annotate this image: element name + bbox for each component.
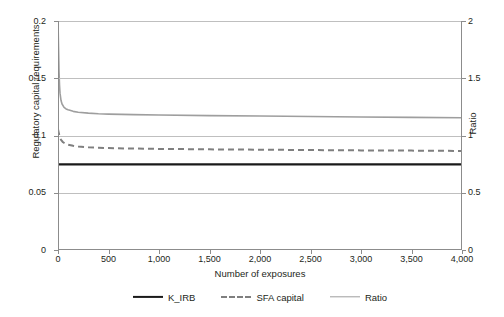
y2-tick-mark: [462, 193, 466, 194]
x-tick-label: 500: [101, 254, 116, 264]
gridline: [58, 21, 462, 22]
chart-legend: K_IRBSFA capitalRatio: [58, 290, 462, 304]
gridline: [58, 136, 462, 137]
x-tick-label: 3,000: [350, 254, 373, 264]
legend-swatch-icon: [330, 293, 360, 301]
y-axis-left-title: Regulatory capital requirements: [30, 0, 41, 192]
y-axis-right-title: Ratio: [467, 84, 478, 164]
x-axis-title: Number of exposures: [58, 268, 462, 279]
x-tick-label: 2,500: [299, 254, 322, 264]
y2-tick-label: 0.5: [468, 188, 481, 197]
x-tick-label: 2,000: [249, 254, 272, 264]
y2-tick-mark: [462, 78, 466, 79]
figure-caption: [18, 309, 488, 317]
gridline: [58, 78, 462, 79]
x-tick-label: 1,000: [148, 254, 171, 264]
y2-tick-mark: [462, 21, 466, 22]
legend-label: SFA capital: [256, 292, 304, 303]
x-axis-line: [58, 249, 462, 250]
legend-swatch-icon: [221, 293, 251, 301]
y-axis-right-line: [461, 21, 462, 250]
y2-tick-label: 1.5: [468, 74, 481, 83]
figure-container: 00.050.10.150.2 00.511.52 05001,0001,500…: [0, 0, 504, 317]
y-axis-left-line: [58, 21, 59, 250]
x-tick-label: 4,000: [451, 254, 474, 264]
legend-item-sfa-capital[interactable]: SFA capital: [221, 292, 304, 303]
x-tick-label: 0: [55, 254, 60, 264]
legend-item-k-irb[interactable]: K_IRB: [133, 292, 195, 303]
legend-label: K_IRB: [168, 292, 195, 303]
legend-label: Ratio: [365, 292, 387, 303]
x-axis-tick-labels: 05001,0001,5002,0002,5003,0003,5004,000: [58, 254, 462, 268]
x-tick-label: 3,500: [400, 254, 423, 264]
gridline: [58, 193, 462, 194]
series-line-sfa-capital: [58, 129, 462, 151]
y2-tick-label: 2: [468, 17, 473, 26]
y-axis-left-tick-labels: 00.050.10.150.2: [0, 21, 53, 250]
legend-swatch-icon: [133, 293, 163, 301]
plot-area: [58, 21, 462, 250]
series-line-ratio: [58, 21, 462, 118]
x-tick-label: 1,500: [198, 254, 221, 264]
y2-tick-mark: [462, 136, 466, 137]
legend-item-ratio[interactable]: Ratio: [330, 292, 387, 303]
y-tick-label: 0: [41, 246, 53, 255]
